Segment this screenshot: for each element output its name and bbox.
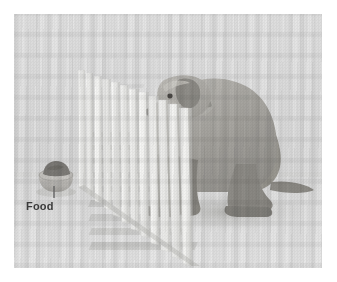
dog-eye: [167, 94, 172, 99]
dog-rear-paw: [225, 206, 273, 217]
figure-root: Food: [0, 0, 337, 282]
fence-slat: [78, 70, 85, 189]
photograph: [14, 14, 322, 268]
food-label: Food: [26, 200, 54, 212]
fence-slat: [86, 73, 93, 196]
scene-illustration: [14, 14, 322, 268]
